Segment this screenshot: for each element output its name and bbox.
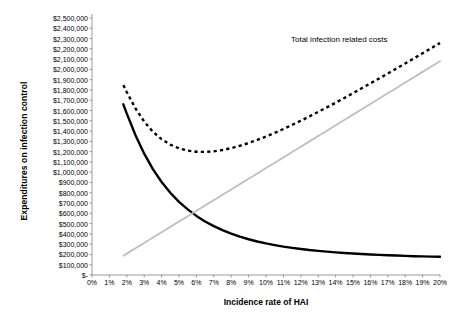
chart-container: Expenditures on infection control $2,500… [0, 0, 457, 322]
series-line-1 [123, 61, 440, 256]
series-line-2 [123, 43, 440, 152]
annotation-total-infection-related-costs: Total infection related costs [291, 35, 388, 44]
series-line-0 [123, 104, 440, 256]
plot-area [0, 0, 457, 322]
x-axis-title: Incidence rate of HAI [92, 297, 440, 307]
